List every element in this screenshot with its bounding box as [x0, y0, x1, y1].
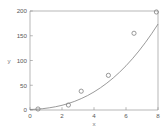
- x-axis-title: x: [92, 120, 96, 127]
- x-tick-label-8: 8: [156, 112, 160, 119]
- y-axis-title: y: [7, 57, 11, 64]
- y-tick-label-50: 50: [20, 82, 27, 89]
- scatter-plot: 0 50 100 150 200 0 2 4 6 8 x y: [0, 0, 167, 131]
- figure-container: 0 50 100 150 200 0 2 4 6 8 x y: [0, 0, 167, 131]
- x-tick-label-6: 6: [124, 112, 128, 119]
- y-tick-label-200: 200: [17, 7, 28, 14]
- y-tick-label-150: 150: [17, 32, 28, 39]
- x-tick-label-2: 2: [60, 112, 64, 119]
- plot-background: [30, 11, 158, 110]
- x-tick-label-4: 4: [92, 112, 96, 119]
- y-tick-label-0: 0: [24, 106, 28, 113]
- x-tick-label-0: 0: [28, 112, 32, 119]
- y-tick-label-100: 100: [17, 57, 28, 64]
